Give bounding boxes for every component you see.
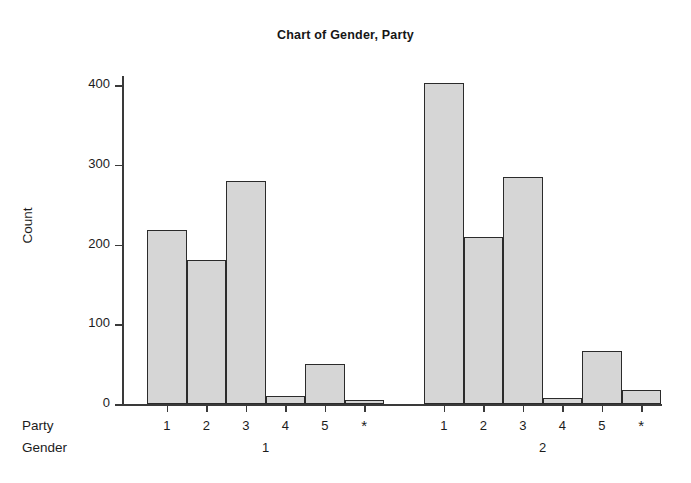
y-tick-mark bbox=[115, 404, 122, 406]
y-tick-label: 200 bbox=[62, 236, 110, 251]
x-tick-mark bbox=[364, 405, 366, 412]
x-tick-mark bbox=[285, 405, 287, 412]
category-label: 4 bbox=[272, 418, 298, 433]
chart-container: Chart of Gender, Party Count 01002003004… bbox=[0, 0, 691, 483]
category-label: 1 bbox=[431, 418, 457, 433]
bar bbox=[622, 390, 662, 404]
category-label: 5 bbox=[312, 418, 338, 433]
category-label: 3 bbox=[233, 418, 259, 433]
bar bbox=[187, 260, 227, 404]
group-label: 1 bbox=[236, 440, 296, 455]
bar bbox=[464, 237, 504, 404]
category-label: 1 bbox=[154, 418, 180, 433]
x-tick-mark bbox=[562, 405, 564, 412]
bar bbox=[266, 396, 306, 404]
y-axis-title: Count bbox=[20, 181, 35, 271]
x-tick-mark bbox=[325, 405, 327, 412]
x-tick-mark bbox=[602, 405, 604, 412]
x-tick-mark bbox=[167, 405, 169, 412]
y-tick-label: 100 bbox=[62, 315, 110, 330]
x-tick-mark bbox=[523, 405, 525, 412]
category-label: 2 bbox=[193, 418, 219, 433]
y-tick-mark bbox=[115, 324, 122, 326]
y-tick-label: 400 bbox=[62, 76, 110, 91]
x-tick-mark bbox=[246, 405, 248, 412]
category-label: 4 bbox=[549, 418, 575, 433]
bar bbox=[582, 351, 622, 404]
x-tick-mark bbox=[444, 405, 446, 412]
bar bbox=[503, 177, 543, 404]
category-label: * bbox=[628, 417, 654, 434]
y-tick-label: 300 bbox=[62, 156, 110, 171]
bar bbox=[345, 400, 385, 404]
bar bbox=[424, 83, 464, 404]
x-tick-mark bbox=[641, 405, 643, 412]
x-axis-line bbox=[122, 404, 662, 406]
category-label: 5 bbox=[589, 418, 615, 433]
bar bbox=[226, 181, 266, 404]
group-label: 2 bbox=[513, 440, 573, 455]
gender-axis-name: Gender bbox=[22, 440, 67, 455]
y-axis-line bbox=[122, 76, 124, 405]
category-label: 2 bbox=[470, 418, 496, 433]
plot-area: Count 0100200300400 12345*12345* 12 Part… bbox=[0, 0, 691, 483]
bar bbox=[147, 230, 187, 404]
x-tick-mark bbox=[483, 405, 485, 412]
y-tick-mark bbox=[115, 165, 122, 167]
category-label: * bbox=[351, 417, 377, 434]
y-tick-label: 0 bbox=[62, 395, 110, 410]
category-label: 3 bbox=[510, 418, 536, 433]
bar bbox=[543, 398, 583, 404]
party-axis-name: Party bbox=[22, 418, 54, 433]
y-tick-mark bbox=[115, 85, 122, 87]
bar bbox=[305, 364, 345, 404]
y-tick-mark bbox=[115, 245, 122, 247]
x-tick-mark bbox=[206, 405, 208, 412]
